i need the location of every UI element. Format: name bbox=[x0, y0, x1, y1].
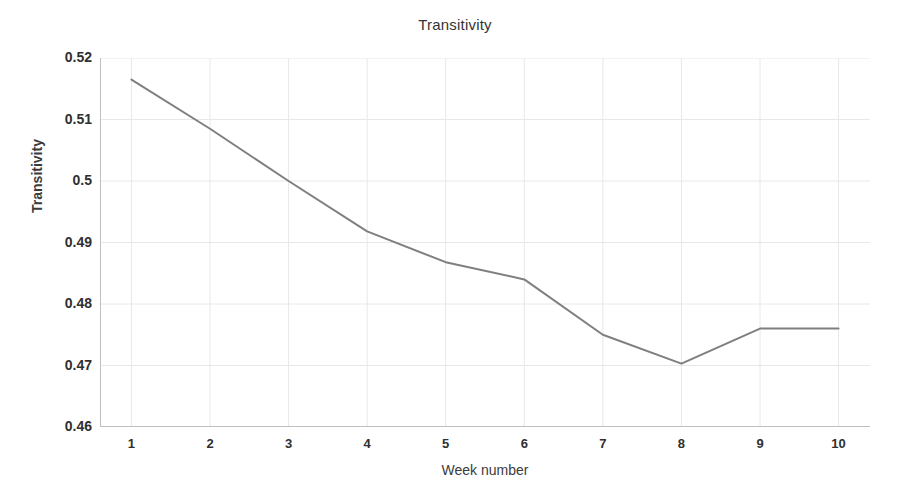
x-tick-label: 3 bbox=[269, 436, 309, 451]
x-tick-label: 4 bbox=[347, 436, 387, 451]
x-tick-label: 8 bbox=[661, 436, 701, 451]
chart-title: Transitivity bbox=[0, 16, 910, 33]
x-tick-label: 2 bbox=[190, 436, 230, 451]
y-tick-label: 0.49 bbox=[32, 234, 92, 250]
gridlines bbox=[100, 58, 870, 427]
y-tick-label: 0.5 bbox=[32, 172, 92, 188]
x-tick-label: 7 bbox=[583, 436, 623, 451]
x-tick-label: 6 bbox=[504, 436, 544, 451]
data-series-layer bbox=[131, 80, 838, 364]
data-line-transitivity bbox=[131, 80, 838, 364]
line-chart-svg bbox=[100, 58, 870, 427]
y-axis-tick-labels: 0.460.470.480.490.50.510.52 bbox=[28, 0, 92, 500]
y-tick-label: 0.46 bbox=[32, 418, 92, 434]
x-tick-label: 5 bbox=[426, 436, 466, 451]
x-tick-label: 10 bbox=[819, 436, 859, 451]
y-tick-label: 0.47 bbox=[32, 357, 92, 373]
y-tick-label: 0.51 bbox=[32, 111, 92, 127]
plot-area bbox=[100, 58, 870, 427]
chart-figure: Transitivity Transitivity Week number 0.… bbox=[0, 0, 910, 500]
x-tick-label: 9 bbox=[740, 436, 780, 451]
x-axis-title: Week number bbox=[100, 462, 870, 478]
y-tick-label: 0.48 bbox=[32, 295, 92, 311]
x-tick-label: 1 bbox=[111, 436, 151, 451]
x-axis-tick-labels: 12345678910 bbox=[0, 436, 910, 460]
y-tick-label: 0.52 bbox=[32, 49, 92, 65]
